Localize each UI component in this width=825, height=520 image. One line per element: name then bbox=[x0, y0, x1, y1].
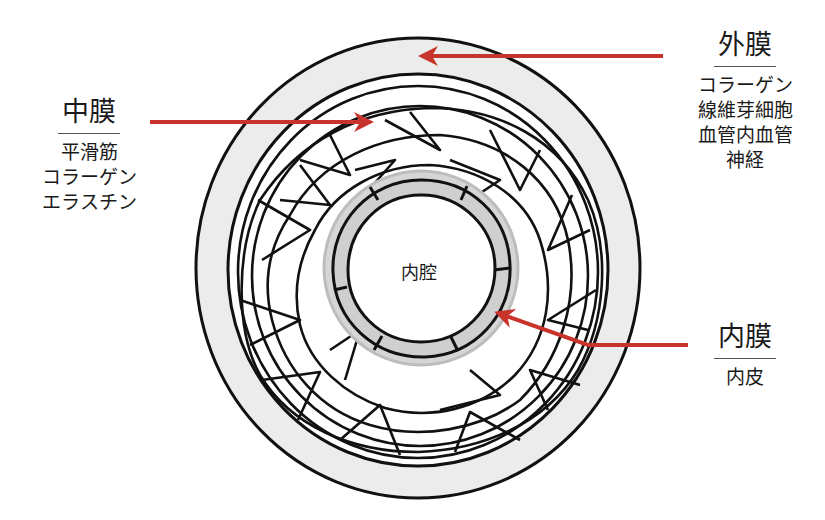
media-components: 平滑筋 コラーゲン エラスチン bbox=[14, 140, 164, 215]
intima-components: 内皮 bbox=[700, 365, 790, 390]
adventitia-components: コラーゲン 線維芽細胞 血管内血管 神経 bbox=[676, 73, 814, 173]
media-item: 平滑筋 bbox=[14, 140, 164, 165]
adventitia-item: 血管内血管 bbox=[676, 123, 814, 148]
intima-title: 内膜 bbox=[714, 320, 776, 359]
adventitia-title: 外膜 bbox=[714, 28, 776, 67]
adventitia-label-block: 外膜 コラーゲン 線維芽細胞 血管内血管 神経 bbox=[676, 28, 814, 173]
intima-label-block: 内膜 内皮 bbox=[700, 320, 790, 390]
media-item: コラーゲン bbox=[14, 165, 164, 190]
adventitia-item: 線維芽細胞 bbox=[676, 98, 814, 123]
media-title: 中膜 bbox=[58, 95, 120, 134]
adventitia-item: 神経 bbox=[676, 148, 814, 173]
media-item: エラスチン bbox=[14, 190, 164, 215]
media-label-block: 中膜 平滑筋 コラーゲン エラスチン bbox=[14, 95, 164, 215]
intima-item: 内皮 bbox=[700, 365, 790, 390]
adventitia-item: コラーゲン bbox=[676, 73, 814, 98]
lumen-label: 内腔 bbox=[401, 258, 437, 284]
